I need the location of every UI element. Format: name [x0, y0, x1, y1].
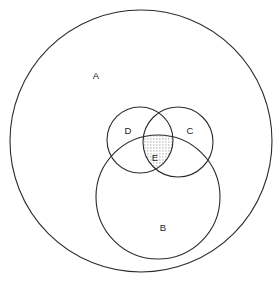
region-label-e: E	[152, 152, 159, 163]
venn-diagram-svg: A B D C E	[0, 0, 280, 284]
set-circle-a	[10, 10, 272, 272]
venn-diagram-canvas: A B D C E	[0, 0, 280, 284]
set-label-b: B	[160, 222, 167, 233]
set-label-c: C	[186, 125, 193, 136]
set-label-d: D	[124, 125, 131, 136]
region-E-shading	[0, 0, 280, 284]
set-label-a: A	[93, 70, 100, 81]
